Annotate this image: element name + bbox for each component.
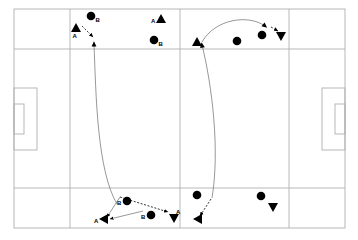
pitch-lines bbox=[14, 9, 345, 228]
marker-circle-m15 bbox=[257, 192, 266, 201]
arrowhead-p1 bbox=[92, 41, 97, 46]
movement-path-p6 bbox=[271, 27, 278, 31]
movement-path-p4 bbox=[82, 26, 93, 37]
marker-circle-m1 bbox=[87, 12, 96, 21]
movement-path-p1 bbox=[94, 44, 117, 204]
marker-triangle-down-m8 bbox=[276, 32, 286, 41]
movement-path-p7 bbox=[200, 199, 211, 216]
marker-label-m10: A bbox=[94, 218, 98, 224]
movement-path-p2 bbox=[202, 45, 215, 198]
player-markers bbox=[71, 12, 286, 224]
marker-circle-m11 bbox=[147, 211, 156, 220]
marker-triangle-up-m5 bbox=[192, 37, 202, 46]
marker-triangle-down-m16 bbox=[268, 203, 278, 212]
left-goal-box bbox=[14, 104, 24, 134]
movement-path-p9 bbox=[110, 211, 143, 219]
marker-circle-m13 bbox=[193, 191, 202, 200]
pitch-outline bbox=[14, 9, 345, 228]
marker-label-m1: B bbox=[96, 17, 100, 23]
right-penalty-box bbox=[322, 88, 345, 150]
marker-circle-m7 bbox=[258, 31, 267, 40]
right-goal-box bbox=[335, 104, 345, 134]
marker-triangle-left-m14 bbox=[193, 214, 202, 224]
pitch-svg bbox=[0, 0, 358, 240]
marker-label-m3: A bbox=[151, 18, 155, 24]
marker-triangle-up-m3 bbox=[156, 14, 166, 23]
arrowhead-p3 bbox=[261, 22, 268, 29]
tactics-diagram: BAABBABA bbox=[0, 0, 358, 240]
marker-circle-m9 bbox=[123, 197, 132, 206]
marker-label-m9: B bbox=[117, 200, 121, 206]
marker-circle-m4 bbox=[150, 36, 159, 45]
marker-label-m11: B bbox=[141, 214, 145, 220]
marker-triangle-down-m12 bbox=[169, 214, 179, 223]
left-penalty-box bbox=[14, 88, 37, 150]
marker-label-m12: A bbox=[176, 209, 180, 215]
marker-circle-m6 bbox=[233, 37, 242, 46]
marker-label-m2: A bbox=[73, 33, 77, 39]
marker-label-m4: B bbox=[159, 41, 163, 47]
marker-triangle-up-m2 bbox=[71, 23, 81, 32]
marker-triangle-left-m10 bbox=[99, 214, 108, 224]
